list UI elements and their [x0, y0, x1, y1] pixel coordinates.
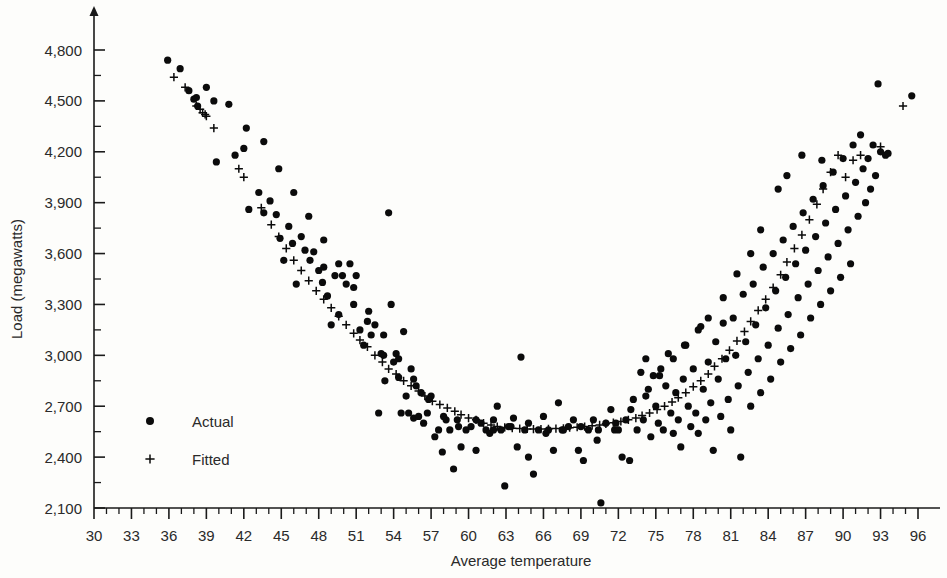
x-tick-label: 81: [722, 527, 739, 544]
data-point-actual: [213, 158, 220, 165]
data-point-actual: [575, 447, 582, 454]
x-tick-label: 84: [760, 527, 777, 544]
data-point-actual: [245, 206, 252, 213]
data-point-fitted: [436, 400, 444, 408]
data-point-actual: [517, 353, 524, 360]
data-point-actual: [555, 399, 562, 406]
data-point-actual: [633, 426, 640, 433]
x-axis-title: Average temperature: [451, 552, 592, 569]
data-point-actual: [420, 420, 427, 427]
x-tick-label: 33: [123, 527, 140, 544]
data-point-actual: [525, 420, 532, 427]
data-point-fitted: [290, 256, 298, 264]
plot-canvas: 2,1002,4002,7003,0003,3003,6003,9004,200…: [0, 0, 947, 578]
x-tick-label: 51: [348, 527, 365, 544]
data-point-fitted: [754, 306, 762, 314]
data-point-actual: [375, 409, 382, 416]
data-point-actual: [210, 97, 217, 104]
x-tick-label: 39: [198, 527, 215, 544]
data-point-actual: [415, 413, 422, 420]
data-point-actual: [457, 443, 464, 450]
data-point-actual: [305, 213, 312, 220]
data-point-actual: [777, 359, 784, 366]
data-point-actual: [690, 365, 697, 372]
x-tick-label: 90: [835, 527, 852, 544]
data-point-actual: [324, 292, 331, 299]
data-point-fitted: [849, 156, 857, 164]
data-point-actual: [733, 270, 740, 277]
data-point-actual: [747, 250, 754, 257]
data-point-fitted: [235, 165, 243, 173]
data-point-actual: [652, 403, 659, 410]
x-tick-label: 36: [161, 527, 178, 544]
data-point-actual: [755, 355, 762, 362]
y-tick-label: 3,000: [44, 347, 82, 364]
x-tick-label: 30: [86, 527, 103, 544]
data-point-fitted: [733, 337, 741, 345]
data-point-actual: [832, 206, 839, 213]
data-point-actual: [435, 426, 442, 433]
data-point-actual: [273, 211, 280, 218]
data-point-actual: [395, 355, 402, 362]
data-point-actual: [380, 352, 387, 359]
data-point-actual: [580, 457, 587, 464]
data-point-actual: [800, 209, 807, 216]
data-point-actual: [775, 185, 782, 192]
data-point-actual: [276, 235, 283, 242]
data-point-fitted: [378, 358, 386, 366]
data-point-actual: [585, 426, 592, 433]
data-point-actual: [667, 409, 674, 416]
data-point-actual: [306, 257, 313, 264]
data-point-actual: [815, 267, 822, 274]
data-point-actual: [675, 416, 682, 423]
data-point-actual: [908, 92, 915, 99]
data-point-fitted: [710, 362, 718, 370]
data-point-actual: [339, 272, 346, 279]
data-point-actual: [177, 65, 184, 72]
data-point-actual: [783, 172, 790, 179]
x-tick-label: 48: [310, 527, 327, 544]
legend-label-fitted: Fitted: [192, 451, 230, 468]
data-point-actual: [752, 321, 759, 328]
data-point-actual: [650, 372, 657, 379]
data-point-actual: [514, 443, 521, 450]
data-point-actual: [822, 219, 829, 226]
data-point-actual: [642, 392, 649, 399]
data-point-actual: [607, 406, 614, 413]
data-point-actual: [849, 141, 856, 148]
data-point-fitted: [704, 370, 712, 378]
data-point-actual: [737, 454, 744, 461]
data-point-actual: [747, 403, 754, 410]
data-point-actual: [884, 150, 891, 157]
data-point-actual: [705, 314, 712, 321]
data-point-actual: [750, 280, 757, 287]
y-tick-label: 4,200: [44, 143, 82, 160]
data-point-actual: [425, 396, 432, 403]
data-point-actual: [494, 403, 501, 410]
data-point-actual: [285, 223, 292, 230]
y-tick-label: 4,500: [44, 92, 82, 109]
x-tick-label: 78: [685, 527, 702, 544]
data-point-actual: [681, 342, 688, 349]
legend-marker-fitted: [145, 454, 154, 463]
data-point-actual: [615, 426, 622, 433]
y-tick-label: 3,600: [44, 245, 82, 262]
data-point-actual: [867, 185, 874, 192]
data-point-actual: [864, 155, 871, 162]
y-tick-label: 3,900: [44, 194, 82, 211]
data-point-fitted: [841, 173, 849, 181]
x-tick-label: 93: [872, 527, 889, 544]
data-point-fitted: [645, 409, 653, 417]
data-point-actual: [280, 257, 287, 264]
y-tick-label: 2,700: [44, 398, 82, 415]
data-point-actual: [787, 345, 794, 352]
data-point-actual: [440, 413, 447, 420]
x-tick-label: 96: [910, 527, 927, 544]
y-tick-label: 2,400: [44, 449, 82, 466]
data-point-actual: [424, 409, 431, 416]
data-point-fitted: [210, 124, 218, 132]
series-fitted: [170, 73, 907, 433]
data-point-actual: [385, 209, 392, 216]
data-point-actual: [510, 414, 517, 421]
x-tick-label: 72: [610, 527, 627, 544]
